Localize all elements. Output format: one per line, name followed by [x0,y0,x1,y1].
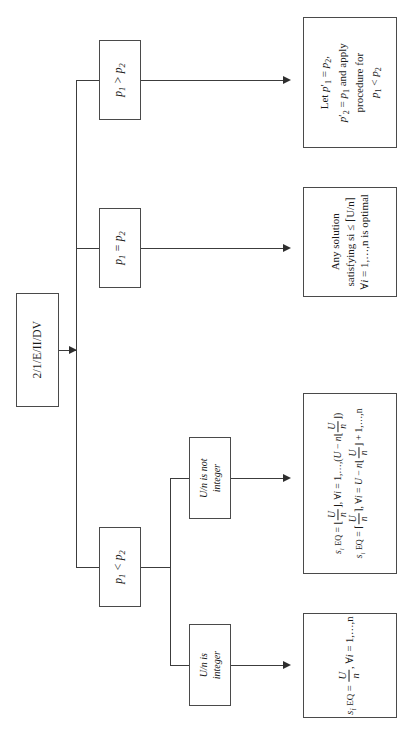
connector-lt-to-subtrunk [141,567,171,568]
outcome-floorceil-line1: si EQ = ⌊Un⌋, ∀i = 1,…,(U − n⌊Un⌋) [329,409,350,559]
arrowhead-integer-outcome [283,661,291,669]
outcome-any-line1: Any solution [328,194,343,289]
outcome-node-exact[interactable]: si EQ = Un, ∀i = 1,…,n [303,613,397,718]
outcome-swap-line3: procedure for [352,43,367,122]
condition-node-p1-gt-p2[interactable]: p1 > p2 [99,40,141,120]
connector-subtrunk-to-notinteger [170,478,189,479]
outcome-exact-line1: si EQ = Un, ∀i = 1,…,n [338,616,361,714]
outcome-swap-line4: p1 < p2 [366,43,384,122]
connector-gt-to-outcome [141,80,289,81]
subcondition-integer-line2: integer [210,651,223,679]
outcome-any-line3: ∀i = 1,…,n is optimal [357,194,372,289]
outcome-swap-line2: p′2 = p1 and apply [334,43,352,122]
connector-subtrunk-to-integer [170,665,189,666]
condition-node-p1-eq-p2[interactable]: p1 = p2 [99,208,141,288]
subcondition-not-integer-line1: U/n is not [197,458,210,497]
start-node[interactable]: 2/1/E/II/DV [16,293,59,407]
subcondition-not-integer-line2: integer [210,458,223,497]
arrowhead-notinteger-outcome [283,474,291,482]
connector-trunk-to-lt [76,567,99,568]
outcome-node-floor-ceil[interactable]: si EQ = ⌊Un⌋, ∀i = 1,…,(U − n⌊Un⌋) si EQ… [303,393,397,574]
outcome-any-text: Any solution satisfying si ≤ ⌈U/n⌉ ∀i = … [328,194,372,289]
outcome-exact-text: si EQ = Un, ∀i = 1,…,n [338,616,361,714]
subcondition-node-un-not-integer[interactable]: U/n is not integer [189,437,231,519]
condition-label-eq: p1 = p2 [111,231,129,264]
start-node-label: 2/1/E/II/DV [30,321,45,379]
subcondition-node-un-integer[interactable]: U/n is integer [189,624,231,706]
subcondition-integer-line1: U/n is [197,651,210,679]
arrowhead-eq-outcome [283,244,291,252]
connector-integer-to-outcome [231,665,289,666]
connector-notinteger-to-outcome [231,478,289,479]
subcondition-label-integer: U/n is integer [197,651,223,679]
connector-trunk-to-eq [76,248,99,249]
outcome-floorceil-line2: si EQ = ⌈Un⌉, ∀i = U − n⌊Un⌋ + 1,…,n [350,409,371,559]
condition-label-gt: p1 > p2 [111,63,129,96]
condition-node-p1-lt-p2[interactable]: p1 < p2 [99,527,141,607]
arrowhead-gt-outcome [283,76,291,84]
flowchart-canvas: 2/1/E/II/DV p1 > p2 p1 = p2 p1 < p2 U/n … [0,0,404,734]
outcome-node-any-solution[interactable]: Any solution satisfying si ≤ ⌈U/n⌉ ∀i = … [303,187,397,297]
outcome-swap-line1: Let p′1 = p2, [316,43,334,122]
connector-sub-trunk [170,478,171,665]
condition-label-lt: p1 < p2 [111,550,129,583]
outcome-any-line2: satisfying si ≤ ⌈U/n⌉ [343,194,358,289]
outcome-swap-text: Let p′1 = p2, p′2 = p1 and apply procedu… [316,43,383,122]
operator-eq: = [112,244,124,252]
outcome-floorceil-text: si EQ = ⌊Un⌋, ∀i = 1,…,(U − n⌊Un⌋) si EQ… [329,409,372,559]
subcondition-label-not-integer: U/n is not integer [197,458,223,497]
connector-main-trunk [76,80,77,567]
operator-gt: > [112,76,124,84]
outcome-node-swap[interactable]: Let p′1 = p2, p′2 = p1 and apply procedu… [303,17,397,148]
connector-eq-to-outcome [141,248,289,249]
operator-lt: < [112,563,124,571]
connector-trunk-to-gt [76,80,99,81]
